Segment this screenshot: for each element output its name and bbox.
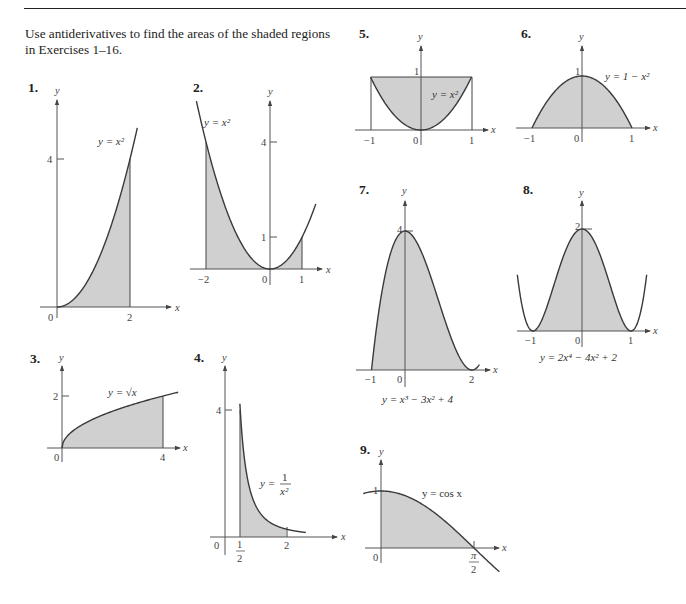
x-tick-label: 0 [373, 552, 378, 563]
x-tick-label: −1 [525, 335, 536, 346]
y-axis-label: y [267, 86, 273, 97]
exercise-number: 7. [359, 182, 369, 197]
figure-7: 7. y x −1 0 2 4 y = x³ − 3x² + 4 [356, 182, 498, 405]
x-tick-label: 2 [127, 312, 132, 323]
x-axis-label: x [340, 531, 346, 542]
x-axis-label: x [182, 442, 188, 453]
x-tick-label: 1 [629, 133, 634, 144]
x-tick-label: 0 [262, 274, 267, 285]
figure-4: 4. y x 0 1 2 2 4 y = 1 x² [194, 350, 346, 564]
equation-label: y = √x [107, 386, 137, 398]
shaded-region [381, 491, 474, 548]
equation-label: y = x² [97, 135, 125, 147]
equation-label: y = x² [203, 116, 231, 128]
x-axis-label: x [490, 124, 496, 135]
figure-5: 5. y x −1 0 1 1 y = x² [355, 26, 496, 146]
y-tick-label: 1 [373, 485, 378, 496]
y-tick-label: 4 [261, 137, 267, 148]
figure-6: 6. y x −1 0 1 1 y = 1 − x² [516, 26, 658, 144]
y-axis-label: y [58, 352, 64, 363]
x-tick-label: 2 [469, 374, 474, 385]
x-tick-label: −1 [364, 135, 375, 146]
x-tick-label-half-numerator: 1 [237, 539, 242, 550]
equation-label: y = 2x⁴ − 4x² + 2 [539, 351, 618, 363]
x-tick-label: 0 [397, 374, 402, 385]
exercise-number: 3. [30, 351, 40, 366]
figure-8: 8. y x −1 0 1 2 y = 2x⁴ − 4x² + 2 [517, 182, 658, 363]
x-axis-label: x [501, 542, 507, 553]
equation-label: y = 1 x² [259, 471, 291, 497]
equation-label: y = cos x [422, 487, 463, 499]
x-tick-label: 0 [214, 540, 219, 551]
y-tick-label: 4 [47, 154, 53, 165]
shaded-region [206, 142, 302, 269]
svg-text:1: 1 [282, 471, 288, 483]
x-tick-label: 1 [628, 335, 633, 346]
y-axis-label: y [578, 31, 584, 42]
y-tick-label: 4 [216, 405, 222, 416]
x-axis-label: x [174, 302, 180, 313]
y-axis-label: y [417, 31, 423, 42]
equation-label: y = x³ − 3x² + 4 [381, 393, 454, 405]
y-tick-label: 1 [261, 232, 266, 243]
y-tick-label: 2 [53, 391, 58, 402]
x-tick-label: −1 [524, 133, 535, 144]
y-axis-label: y [578, 187, 584, 198]
exercise-number: 2. [193, 80, 203, 95]
svg-text:y =: y = [259, 477, 275, 489]
y-axis-label: y [54, 85, 60, 96]
figure-2: 2. y x −2 0 1 4 1 y = x² [190, 80, 331, 285]
x-tick-label: 0 [48, 312, 53, 323]
x-tick-label-half-denominator: 2 [237, 553, 242, 564]
shaded-region [57, 159, 130, 307]
exercise-number: 6. [521, 26, 531, 41]
exercise-number: 5. [359, 26, 369, 41]
y-axis-label: y [401, 185, 407, 196]
shaded-region [62, 396, 163, 448]
exercise-number: 4. [194, 350, 204, 365]
x-axis-label: x [492, 364, 498, 375]
y-tick-label: 4 [397, 224, 403, 235]
y-tick-label: 1 [575, 66, 580, 77]
equation-label: y = x² [431, 88, 459, 100]
x-tick-label: 0 [574, 133, 579, 144]
x-tick-label: 0 [413, 135, 418, 146]
exercise-number: 8. [523, 182, 533, 197]
x-axis-label: x [652, 325, 658, 336]
svg-text:x²: x² [279, 485, 289, 497]
figure-9: 9. y x 0 π 2 1 y = cos x [360, 442, 507, 575]
x-tick-label: 0 [575, 335, 580, 346]
exercise-figures: 1. y x 0 2 4 y = x² 2. y x −2 0 1 4 1 y … [0, 0, 686, 604]
exercise-number: 1. [28, 80, 38, 95]
y-axis-label: y [221, 352, 227, 363]
equation-label: y = 1 − x² [604, 70, 650, 82]
figure-3: 3. y x 0 4 2 y = √x [30, 351, 188, 463]
x-tick-label-pi: π [471, 550, 477, 561]
y-tick-label: 1 [414, 66, 419, 77]
y-axis-label: y [378, 446, 384, 457]
x-tick-label: 4 [160, 452, 166, 463]
x-tick-label: −1 [365, 374, 376, 385]
x-axis-label: x [652, 122, 658, 133]
x-axis-label: x [325, 264, 331, 275]
x-tick-label: 1 [469, 135, 474, 146]
y-tick-label: 2 [575, 221, 580, 232]
x-tick-label: −2 [198, 274, 209, 285]
x-tick-label-pi-denominator: 2 [471, 564, 476, 575]
x-tick-label: 1 [299, 274, 304, 285]
exercise-number: 9. [360, 442, 370, 457]
x-tick-label: 0 [54, 452, 59, 463]
x-tick-label: 2 [284, 540, 289, 551]
figure-1: 1. y x 0 2 4 y = x² [28, 80, 180, 323]
